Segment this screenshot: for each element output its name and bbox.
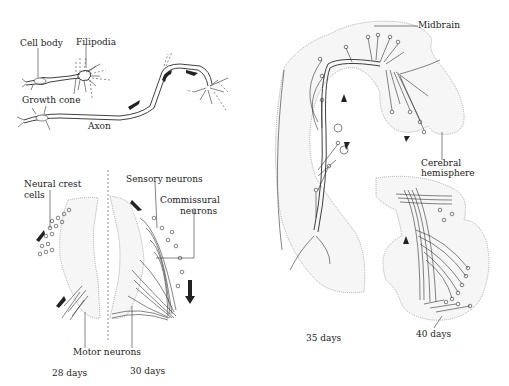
label-hemisphere: hemisphere [421, 168, 475, 178]
label-sensory-neurons: Sensory neurons [126, 174, 203, 184]
label-commissural-neurons: neurons [180, 206, 217, 216]
label-motor-neurons: Motor neurons [73, 347, 141, 357]
label-cell-body: Cell body [20, 38, 63, 48]
brain-40-panel [376, 176, 489, 328]
label-40-days: 40 days [416, 329, 451, 339]
label-30-days: 30 days [130, 366, 165, 376]
label-commissural: Commissural [160, 195, 220, 205]
cell-body-icon [34, 78, 46, 84]
label-28-days: 28 days [52, 368, 87, 378]
label-midbrain: Midbrain [418, 20, 460, 30]
label-filipodia: Filipodia [76, 37, 116, 47]
axon-growth-panel [17, 44, 228, 130]
label-35-days: 35 days [306, 333, 341, 343]
label-growth-cone: Growth cone [22, 95, 80, 105]
label-cerebral: Cerebral [421, 158, 461, 168]
label-axon: Axon [88, 121, 111, 131]
label-neural-crest-cells: cells [24, 190, 45, 200]
label-neural-crest: Neural crest [24, 179, 81, 189]
